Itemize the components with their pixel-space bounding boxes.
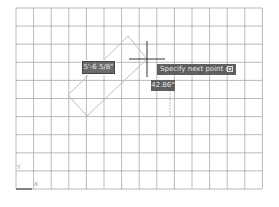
angle-input-field[interactable]: 42.86°	[151, 80, 175, 91]
rectangle-preview	[68, 36, 147, 116]
prompt-text: Specify next point or	[160, 65, 233, 73]
options-down-arrow-icon[interactable]	[227, 66, 233, 72]
ucs-x-axis-label: X	[34, 180, 38, 187]
ucs-y-axis-label: Y	[17, 163, 21, 170]
length-input-field[interactable]: 5'-6 5/8"	[82, 61, 115, 74]
drawing-area[interactable]	[0, 0, 279, 207]
drawing-canvas[interactable]: 5'-6 5/8" Specify next point or 42.86° Y…	[0, 0, 279, 207]
command-prompt-tooltip: Specify next point or	[157, 64, 236, 75]
